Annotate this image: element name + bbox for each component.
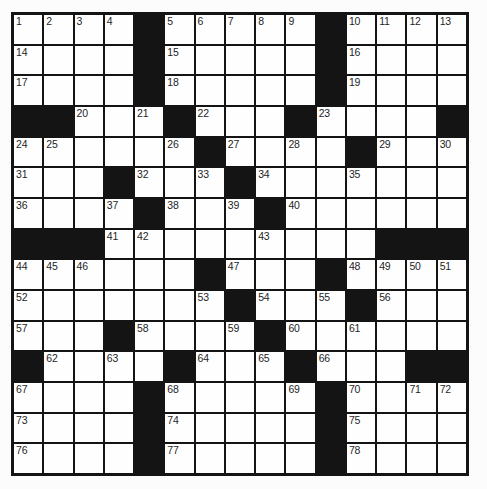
grid-cell-r6c3[interactable] — [75, 168, 103, 197]
grid-cell-r15c15[interactable] — [438, 444, 466, 473]
grid-cell-r10c5[interactable] — [135, 291, 163, 320]
grid-cell-r2c4[interactable] — [105, 46, 133, 75]
grid-cell-r7c11[interactable] — [317, 199, 345, 228]
grid-cell-r14c6[interactable]: 74 — [165, 414, 193, 443]
grid-cell-r7c10[interactable]: 40 — [286, 199, 314, 228]
grid-cell-r7c4[interactable]: 37 — [105, 199, 133, 228]
grid-cell-r7c1[interactable]: 36 — [14, 199, 42, 228]
grid-cell-r9c6[interactable] — [165, 260, 193, 289]
grid-cell-r8c9[interactable]: 43 — [256, 230, 284, 259]
grid-cell-r10c2[interactable] — [44, 291, 72, 320]
grid-cell-r13c6[interactable]: 68 — [165, 383, 193, 412]
grid-cell-r9c15[interactable]: 51 — [438, 260, 466, 289]
grid-cell-r15c10[interactable] — [286, 444, 314, 473]
grid-cell-r5c14[interactable] — [407, 138, 435, 167]
grid-cell-r14c15[interactable] — [438, 414, 466, 443]
grid-cell-r15c6[interactable]: 77 — [165, 444, 193, 473]
grid-cell-r13c8[interactable] — [226, 383, 254, 412]
grid-cell-r15c8[interactable] — [226, 444, 254, 473]
grid-cell-r6c12[interactable]: 35 — [347, 168, 375, 197]
grid-cell-r7c14[interactable] — [407, 199, 435, 228]
grid-cell-r3c13[interactable] — [377, 76, 405, 105]
grid-cell-r14c7[interactable] — [196, 414, 224, 443]
grid-cell-r11c11[interactable] — [317, 322, 345, 351]
grid-cell-r8c6[interactable] — [165, 230, 193, 259]
grid-cell-r5c10[interactable]: 28 — [286, 138, 314, 167]
grid-cell-r13c1[interactable]: 67 — [14, 383, 42, 412]
grid-cell-r8c12[interactable] — [347, 230, 375, 259]
grid-cell-r11c6[interactable] — [165, 322, 193, 351]
grid-cell-r2c2[interactable] — [44, 46, 72, 75]
grid-cell-r11c5[interactable]: 58 — [135, 322, 163, 351]
grid-cell-r1c14[interactable]: 12 — [407, 15, 435, 44]
grid-cell-r11c7[interactable] — [196, 322, 224, 351]
grid-cell-r7c6[interactable]: 38 — [165, 199, 193, 228]
grid-cell-r9c14[interactable]: 50 — [407, 260, 435, 289]
grid-cell-r9c3[interactable]: 46 — [75, 260, 103, 289]
grid-cell-r12c5[interactable] — [135, 352, 163, 381]
grid-cell-r10c13[interactable]: 56 — [377, 291, 405, 320]
grid-cell-r11c8[interactable]: 59 — [226, 322, 254, 351]
grid-cell-r12c9[interactable]: 65 — [256, 352, 284, 381]
grid-cell-r9c13[interactable]: 49 — [377, 260, 405, 289]
grid-cell-r6c13[interactable] — [377, 168, 405, 197]
grid-cell-r4c8[interactable] — [226, 107, 254, 136]
grid-cell-r12c3[interactable] — [75, 352, 103, 381]
grid-cell-r9c2[interactable]: 45 — [44, 260, 72, 289]
grid-cell-r14c1[interactable]: 73 — [14, 414, 42, 443]
grid-cell-r12c11[interactable]: 66 — [317, 352, 345, 381]
grid-cell-r5c1[interactable]: 24 — [14, 138, 42, 167]
grid-cell-r10c6[interactable] — [165, 291, 193, 320]
grid-cell-r12c8[interactable] — [226, 352, 254, 381]
grid-cell-r1c13[interactable]: 11 — [377, 15, 405, 44]
grid-cell-r13c10[interactable]: 69 — [286, 383, 314, 412]
grid-cell-r7c7[interactable] — [196, 199, 224, 228]
grid-cell-r7c3[interactable] — [75, 199, 103, 228]
grid-cell-r6c1[interactable]: 31 — [14, 168, 42, 197]
grid-cell-r9c4[interactable] — [105, 260, 133, 289]
grid-cell-r13c3[interactable] — [75, 383, 103, 412]
grid-cell-r6c11[interactable] — [317, 168, 345, 197]
grid-cell-r9c1[interactable]: 44 — [14, 260, 42, 289]
grid-cell-r1c12[interactable]: 10 — [347, 15, 375, 44]
grid-cell-r1c8[interactable]: 7 — [226, 15, 254, 44]
grid-cell-r3c3[interactable] — [75, 76, 103, 105]
grid-cell-r8c8[interactable] — [226, 230, 254, 259]
grid-cell-r5c11[interactable] — [317, 138, 345, 167]
grid-cell-r13c4[interactable] — [105, 383, 133, 412]
grid-cell-r5c2[interactable]: 25 — [44, 138, 72, 167]
grid-cell-r3c6[interactable]: 18 — [165, 76, 193, 105]
grid-cell-r14c14[interactable] — [407, 414, 435, 443]
grid-cell-r1c9[interactable]: 8 — [256, 15, 284, 44]
grid-cell-r2c9[interactable] — [256, 46, 284, 75]
grid-cell-r1c3[interactable]: 3 — [75, 15, 103, 44]
grid-cell-r3c4[interactable] — [105, 76, 133, 105]
grid-cell-r7c12[interactable] — [347, 199, 375, 228]
grid-cell-r1c1[interactable]: 1 — [14, 15, 42, 44]
grid-cell-r11c2[interactable] — [44, 322, 72, 351]
grid-cell-r8c11[interactable] — [317, 230, 345, 259]
grid-cell-r6c2[interactable] — [44, 168, 72, 197]
grid-cell-r2c15[interactable] — [438, 46, 466, 75]
grid-cell-r2c13[interactable] — [377, 46, 405, 75]
grid-cell-r5c4[interactable] — [105, 138, 133, 167]
grid-cell-r10c4[interactable] — [105, 291, 133, 320]
grid-cell-r2c8[interactable] — [226, 46, 254, 75]
grid-cell-r7c15[interactable] — [438, 199, 466, 228]
grid-cell-r10c9[interactable]: 54 — [256, 291, 284, 320]
grid-cell-r3c12[interactable]: 19 — [347, 76, 375, 105]
grid-cell-r6c14[interactable] — [407, 168, 435, 197]
grid-cell-r6c5[interactable]: 32 — [135, 168, 163, 197]
grid-cell-r11c14[interactable] — [407, 322, 435, 351]
grid-cell-r15c1[interactable]: 76 — [14, 444, 42, 473]
grid-cell-r10c1[interactable]: 52 — [14, 291, 42, 320]
grid-cell-r5c3[interactable] — [75, 138, 103, 167]
grid-cell-r4c3[interactable]: 20 — [75, 107, 103, 136]
grid-cell-r2c1[interactable]: 14 — [14, 46, 42, 75]
grid-cell-r12c13[interactable] — [377, 352, 405, 381]
grid-cell-r14c10[interactable] — [286, 414, 314, 443]
grid-cell-r4c5[interactable]: 21 — [135, 107, 163, 136]
grid-cell-r13c14[interactable]: 71 — [407, 383, 435, 412]
grid-cell-r8c10[interactable] — [286, 230, 314, 259]
grid-cell-r14c13[interactable] — [377, 414, 405, 443]
